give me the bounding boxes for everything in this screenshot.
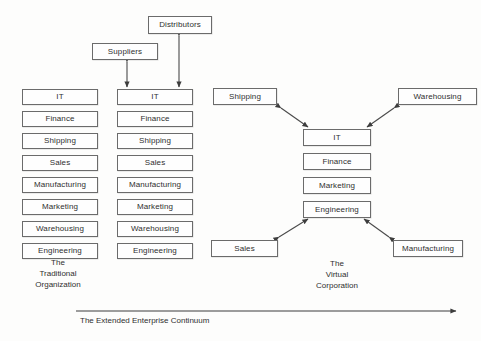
diagram-canvas: Distributors Suppliers IT Finance Shippi…	[0, 0, 481, 341]
arrow-warehousing-core	[367, 108, 394, 127]
traditional-right-manufacturing[interactable]: Manufacturing	[117, 177, 193, 193]
traditional-right-shipping[interactable]: Shipping	[117, 133, 193, 149]
traditional-organization-caption: The Traditional Organization	[13, 257, 103, 290]
virtual-satellite-warehousing[interactable]: Warehousing	[398, 88, 477, 105]
traditional-left-it[interactable]: IT	[22, 89, 98, 105]
virtual-core-it[interactable]: IT	[303, 129, 371, 146]
traditional-left-shipping[interactable]: Shipping	[22, 133, 98, 149]
traditional-right-engineering[interactable]: Engineering	[117, 243, 193, 259]
traditional-right-finance[interactable]: Finance	[117, 111, 193, 127]
traditional-right-it[interactable]: IT	[117, 89, 193, 105]
arrow-sales-core	[279, 219, 308, 237]
traditional-right-sales[interactable]: Sales	[117, 155, 193, 171]
arrow-shipping-core	[281, 108, 308, 127]
traditional-left-marketing[interactable]: Marketing	[22, 199, 98, 215]
traditional-right-warehousing[interactable]: Warehousing	[117, 221, 193, 237]
continuum-label: The Extended Enterprise Continuum	[80, 316, 209, 325]
traditional-left-manufacturing[interactable]: Manufacturing	[22, 177, 98, 193]
virtual-core-marketing[interactable]: Marketing	[303, 177, 371, 194]
partner-box-suppliers[interactable]: Suppliers	[92, 43, 158, 60]
virtual-core-finance[interactable]: Finance	[303, 153, 371, 170]
virtual-satellite-manufacturing[interactable]: Manufacturing	[393, 240, 463, 257]
partner-box-distributors[interactable]: Distributors	[148, 16, 212, 34]
traditional-left-warehousing[interactable]: Warehousing	[22, 221, 98, 237]
virtual-satellite-sales[interactable]: Sales	[211, 240, 278, 257]
traditional-right-marketing[interactable]: Marketing	[117, 199, 193, 215]
virtual-core-engineering[interactable]: Engineering	[303, 201, 371, 218]
virtual-satellite-shipping[interactable]: Shipping	[213, 88, 277, 105]
traditional-left-sales[interactable]: Sales	[22, 155, 98, 171]
traditional-left-finance[interactable]: Finance	[22, 111, 98, 127]
virtual-corporation-caption: The Virtual Corporation	[295, 258, 379, 291]
arrow-manufacturing-core	[364, 219, 389, 237]
